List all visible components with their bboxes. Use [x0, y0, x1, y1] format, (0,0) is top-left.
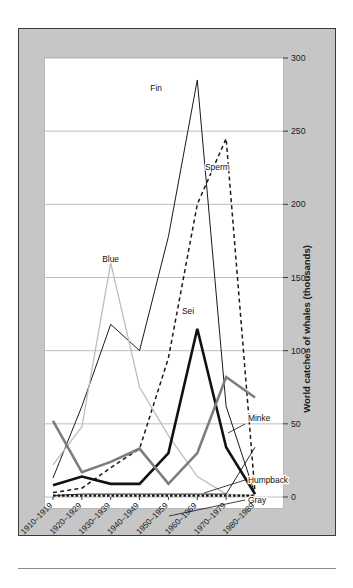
leader-line-humpback — [204, 480, 245, 493]
series-label-sei: Sei — [182, 306, 194, 316]
y-axis-title: World catches of whales (thousands) — [301, 245, 312, 413]
series-label-humpback: Humpback — [248, 475, 289, 485]
chart-svg: 050100150200250300 FinFinSpermSpermBlueB… — [19, 29, 337, 537]
gridline-group — [45, 58, 283, 497]
leader-line-minke — [228, 424, 245, 433]
x-tick-label-group: 1910–19191920–19291930–19391940–19491950… — [19, 501, 257, 537]
tickmark-group — [53, 58, 288, 500]
bottom-rule — [18, 568, 336, 569]
y-tick-label: 250 — [291, 126, 306, 136]
x-tick-label: 1980–1989 — [221, 501, 257, 537]
chart-plate: 050100150200250300 FinFinSpermSpermBlueB… — [18, 28, 336, 536]
y-tick-label: 50 — [291, 419, 301, 429]
series-label-fin: Fin — [150, 83, 162, 93]
y-tick-label: 200 — [291, 199, 306, 209]
series-label-minke: Minke — [248, 413, 271, 423]
series-label-sperm: Sperm — [205, 162, 230, 172]
series-line-group — [53, 80, 255, 496]
series-label-group: FinFinSpermSpermBlueBlueSeiSeiMinkeMinke… — [102, 83, 289, 505]
y-tick-label: 300 — [291, 53, 306, 63]
y-tick-label: 0 — [291, 492, 296, 502]
figure-container: 050100150200250300 FinFinSpermSpermBlueB… — [0, 0, 353, 588]
series-label-blue: Blue — [102, 254, 119, 264]
